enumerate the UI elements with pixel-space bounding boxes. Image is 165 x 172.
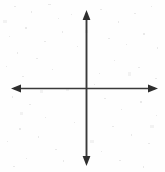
right-arrowhead-icon [148,85,158,93]
left-arrowhead-icon [11,85,21,93]
axes-drawing [0,0,165,172]
coordinate-axes-figure [0,0,165,172]
down-arrowhead-icon [83,156,91,166]
up-arrowhead-icon [83,10,91,20]
